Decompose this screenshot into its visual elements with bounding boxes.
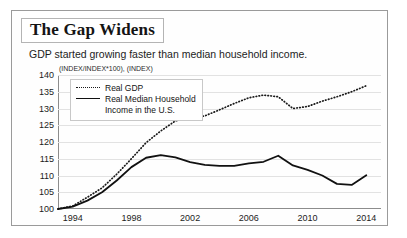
axis-unit-label: (INDEX/INDEX*100), (INDEX): [59, 65, 153, 72]
chart-legend: Real GDPReal Median Household Income in …: [70, 79, 203, 121]
legend-label: Real Median Household Income in the U.S.: [105, 94, 196, 115]
y-tick-label: 100: [39, 204, 54, 214]
y-tick-label: 105: [39, 187, 54, 197]
y-tick-label: 110: [40, 171, 54, 181]
legend-item: Real GDP: [76, 83, 196, 93]
y-tick-label: 115: [40, 154, 54, 164]
legend-item: Real Median Household Income in the U.S.: [76, 94, 196, 115]
x-tick-label: 1994: [63, 213, 83, 223]
x-tick-label: 1998: [121, 213, 141, 223]
y-tick-label: 135: [39, 87, 54, 97]
chart-subtitle: GDP started growing faster than median h…: [29, 48, 307, 60]
dotted-line-icon: [76, 83, 100, 92]
y-tick-label: 125: [39, 120, 54, 130]
chart-figure: The Gap Widens GDP started growing faste…: [11, 10, 388, 226]
x-tick-label: 2002: [180, 213, 200, 223]
x-tick-label: 2010: [298, 213, 318, 223]
y-tick-label: 130: [39, 104, 54, 114]
series-line: [58, 155, 366, 209]
solid-line-icon: [76, 94, 100, 103]
legend-label: Real GDP: [105, 83, 143, 93]
x-tick-label: 2014: [356, 213, 376, 223]
y-tick-label: 140: [39, 70, 54, 80]
plot-area: 100105110115120125130135140 199419982002…: [58, 75, 381, 209]
y-tick-label: 120: [39, 137, 54, 147]
chart-title-box: The Gap Widens: [21, 18, 164, 43]
page-title: The Gap Widens: [30, 20, 155, 40]
x-tick-label: 2006: [239, 213, 259, 223]
